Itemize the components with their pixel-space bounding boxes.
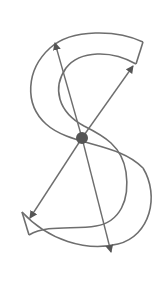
bottom-band-inner-edge (29, 172, 127, 235)
s-band-diagram (0, 0, 165, 282)
top-band-outer-edge (31, 33, 143, 168)
arrow-top-right (82, 66, 133, 138)
center-point (76, 132, 88, 144)
diagram-svg (0, 0, 165, 282)
bottom-band-outer-edge (22, 168, 151, 246)
arrow-bottom-right (82, 138, 111, 252)
top-band-end-cap (136, 42, 143, 64)
arrow-bottom-left (30, 138, 82, 218)
